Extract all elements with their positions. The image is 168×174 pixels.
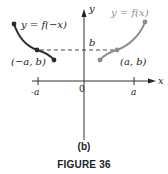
y-tick-label-b: b: [89, 37, 95, 48]
x-axis-label: x: [158, 75, 164, 86]
y-axis-arrow-icon: [82, 9, 87, 17]
figure-36: y = f(−x) (−a, b) y = f(x) (a, b) y x b …: [0, 0, 168, 174]
x-axis-arrow-icon: [148, 79, 156, 84]
label-f-x: y = f(x): [110, 7, 149, 18]
endpoint-dot: [143, 20, 148, 25]
figure-caption: FIGURE 36: [0, 159, 168, 170]
origin-label: 0: [79, 84, 85, 94]
x-tick-label-neg-a: -a: [31, 87, 39, 97]
endpoint-dot: [12, 22, 17, 27]
point-neg-a-b-dot: [35, 48, 40, 53]
label-point-neg-a-b: (−a, b): [11, 56, 46, 67]
curve-f-x: [100, 22, 145, 60]
point-a-b-dot: [115, 48, 120, 53]
x-tick-label-a: a: [131, 87, 136, 97]
y-axis-label: y: [88, 3, 95, 14]
endpoint-dot: [98, 58, 103, 63]
endpoint-dot: [52, 58, 57, 63]
label-f-neg-x: y = f(−x): [20, 19, 67, 30]
label-point-a-b: (a, b): [120, 56, 147, 67]
subfigure-label: (b): [0, 141, 168, 152]
